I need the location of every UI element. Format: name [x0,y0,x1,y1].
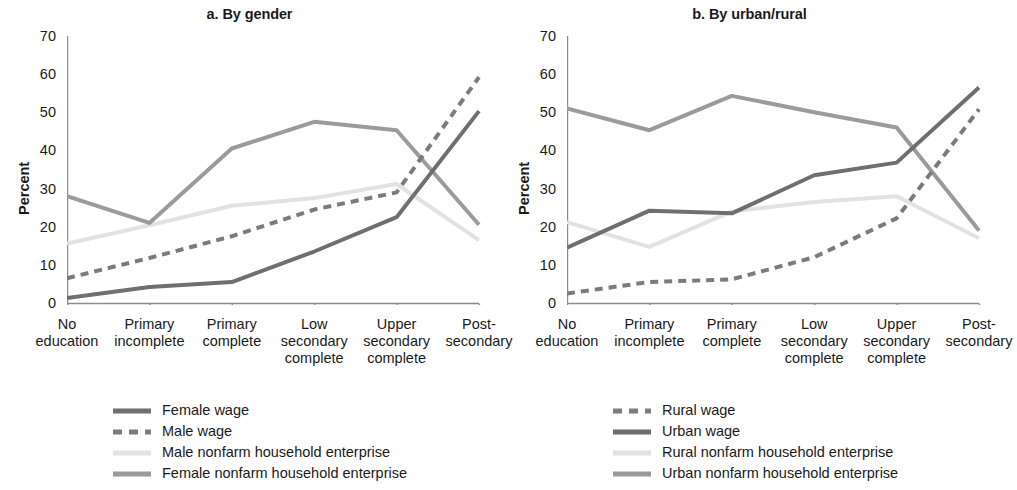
y-tick-label: 50 [22,105,56,120]
legend-item: Urban wage [613,421,898,442]
plot-area-a: 010203040506070No educationPrimary incom… [67,36,479,303]
y-tick-label: 70 [522,29,556,44]
y-tick-label: 10 [522,258,556,273]
legend-label: Urban nonfarm household enterprise [662,466,898,481]
y-tick-label: 40 [22,143,56,158]
y-tick-label: 30 [22,182,56,197]
legend-item: Female wage [113,400,407,421]
y-tick-label: 20 [22,220,56,235]
y-tick-label: 0 [22,296,56,311]
legend-label: Rural wage [662,403,735,418]
y-tick-label: 70 [22,29,56,44]
x-tick-label: Low secondary complete [775,316,853,367]
legend-item: Male wage [113,421,407,442]
x-tick-label: Primary incomplete [110,316,188,350]
series-line-urban-wage [567,87,979,247]
x-tick-label: Primary incomplete [610,316,688,350]
legend-swatch-icon [613,425,651,439]
y-tick-label: 0 [522,296,556,311]
plot-area-b: 010203040506070No educationPrimary incom… [567,36,979,303]
legend-swatch-icon [113,446,151,460]
y-tick-label: 20 [522,220,556,235]
legend-swatch-icon [113,425,151,439]
chart-panel-by-gender: a. By gender Percent 010203040506070No e… [0,0,499,400]
x-tick-label: Upper secondary complete [858,316,936,367]
legend-by-gender: Female wageMale wageMale nonfarm househo… [113,400,407,484]
legend-label: Male wage [162,424,232,439]
legend-item: Female nonfarm household enterprise [113,463,407,484]
legend-swatch-icon [613,467,651,481]
legend-label: Male nonfarm household enterprise [162,445,390,460]
legend-item: Rural nonfarm household enterprise [613,442,898,463]
chart-panel-by-urban-rural: b. By urban/rural Percent 01020304050607… [500,0,999,400]
series-line-urban-nonfarm-household-enterprise [567,96,979,231]
x-tick-label: No education [528,316,606,350]
y-tick-label: 50 [522,105,556,120]
legend-label: Female wage [162,403,249,418]
legend-by-urban-rural: Rural wageUrban wageRural nonfarm househ… [613,400,898,484]
series-line-rural-wage [567,109,979,293]
series-line-female-wage [67,111,479,298]
legend-label: Female nonfarm household enterprise [162,466,407,481]
panel-title-a: a. By gender [0,6,499,22]
y-tick-label: 10 [22,258,56,273]
legend-item: Rural wage [613,400,898,421]
x-tick-label: No education [28,316,106,350]
legend-item: Male nonfarm household enterprise [113,442,407,463]
y-tick-label: 60 [22,67,56,82]
legend-swatch-icon [113,404,151,418]
chart-svg-a [67,36,481,305]
y-tick-label: 40 [522,143,556,158]
series-line-male-wage [67,77,479,278]
y-tick-label: 30 [522,182,556,197]
legend-swatch-icon [613,446,651,460]
x-tick-label: Post- secondary [940,316,1017,350]
series-line-female-nonfarm-household-enterprise [67,122,479,225]
x-tick-label: Upper secondary complete [358,316,436,367]
legend-label: Rural nonfarm household enterprise [662,445,893,460]
x-tick-label: Primary complete [193,316,271,350]
chart-svg-b [567,36,981,305]
legend-label: Urban wage [662,424,740,439]
panel-title-b: b. By urban/rural [500,6,999,22]
legend-swatch-icon [613,404,651,418]
x-tick-label: Primary complete [693,316,771,350]
legend-item: Urban nonfarm household enterprise [613,463,898,484]
x-tick-label: Low secondary complete [275,316,353,367]
legend-swatch-icon [113,467,151,481]
y-tick-label: 60 [522,67,556,82]
